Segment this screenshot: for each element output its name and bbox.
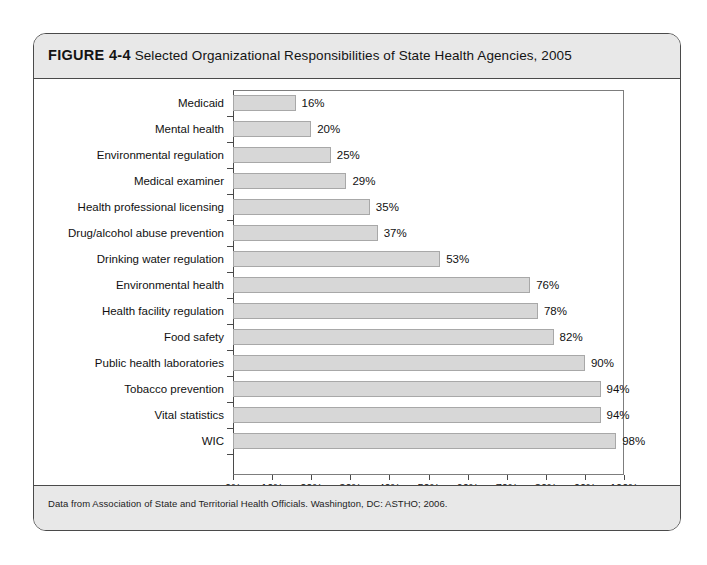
bar-row: Tobacco prevention94%	[233, 376, 624, 402]
category-label: Mental health	[155, 123, 224, 135]
bar	[233, 121, 311, 137]
bar	[233, 95, 296, 111]
bar-rows: Medicaid16%Mental health20%Environmental…	[233, 90, 624, 475]
bar-value-label: 82%	[560, 331, 583, 343]
x-axis-tick	[389, 475, 390, 480]
bar-row: Mental health20%	[233, 116, 624, 142]
x-axis-tick	[546, 475, 547, 480]
bar-row: Drug/alcohol abuse prevention37%	[233, 220, 624, 246]
bar-value-label: 94%	[607, 409, 630, 421]
bar-row: Medical examiner29%	[233, 168, 624, 194]
source-note: Data from Association of State and Terri…	[48, 498, 447, 509]
y-axis-tick	[227, 454, 233, 455]
category-label: Tobacco prevention	[124, 383, 224, 395]
category-label: Health professional licensing	[78, 201, 224, 213]
x-axis-tick	[311, 475, 312, 480]
bar-row: Health facility regulation78%	[233, 298, 624, 324]
chart-body: Medicaid16%Mental health20%Environmental…	[34, 79, 680, 487]
bar-row: Food safety82%	[233, 324, 624, 350]
bar-row: Medicaid16%	[233, 90, 624, 116]
bar-row: Public health laboratories90%	[233, 350, 624, 376]
bar-value-label: 94%	[607, 383, 630, 395]
bar	[233, 355, 585, 371]
bar	[233, 251, 440, 267]
x-axis-tick	[585, 475, 586, 480]
bar-value-label: 25%	[337, 149, 360, 161]
x-axis-tick	[507, 475, 508, 480]
category-label: Medicaid	[178, 97, 224, 109]
category-label: Vital statistics	[155, 409, 224, 421]
figure-caption: Selected Organizational Responsibilities…	[135, 48, 572, 63]
bar-value-label: 90%	[591, 357, 614, 369]
figure-number: FIGURE 4-4	[48, 47, 131, 63]
x-axis-tick	[468, 475, 469, 480]
bar	[233, 173, 346, 189]
bar-value-label: 98%	[622, 435, 645, 447]
bar-row: Environmental health76%	[233, 272, 624, 298]
category-label: Environmental health	[116, 279, 224, 291]
bar	[233, 433, 616, 449]
bar	[233, 303, 538, 319]
x-axis-tick	[272, 475, 273, 480]
x-axis-tick	[350, 475, 351, 480]
bar	[233, 329, 554, 345]
figure-container: FIGURE 4-4 Selected Organizational Respo…	[33, 33, 681, 531]
category-label: Drinking water regulation	[97, 253, 224, 265]
bar	[233, 147, 331, 163]
figure-title: FIGURE 4-4 Selected Organizational Respo…	[48, 47, 572, 63]
bar-value-label: 53%	[446, 253, 469, 265]
bar-row: WIC98%	[233, 428, 624, 454]
category-label: Environmental regulation	[97, 149, 224, 161]
bar-value-label: 29%	[352, 175, 375, 187]
category-label: Drug/alcohol abuse prevention	[68, 227, 224, 239]
bar-value-label: 20%	[317, 123, 340, 135]
bar	[233, 199, 370, 215]
figure-footer-band: Data from Association of State and Terri…	[34, 485, 680, 530]
bar-row: Drinking water regulation53%	[233, 246, 624, 272]
bar	[233, 407, 601, 423]
bar	[233, 381, 601, 397]
bar-value-label: 35%	[376, 201, 399, 213]
category-label: WIC	[202, 435, 224, 447]
x-axis-tick	[429, 475, 430, 480]
x-axis-tick	[624, 475, 625, 480]
bar-row: Environmental regulation25%	[233, 142, 624, 168]
figure-header-band: FIGURE 4-4 Selected Organizational Respo…	[34, 34, 680, 79]
bar-value-label: 16%	[302, 97, 325, 109]
category-label: Medical examiner	[134, 175, 224, 187]
bar-value-label: 37%	[384, 227, 407, 239]
bar-row: Health professional licensing35%	[233, 194, 624, 220]
category-label: Public health laboratories	[95, 357, 224, 369]
bar-value-label: 76%	[536, 279, 559, 291]
category-label: Health facility regulation	[102, 305, 224, 317]
bar-row: Vital statistics94%	[233, 402, 624, 428]
bar	[233, 225, 378, 241]
bar-value-label: 78%	[544, 305, 567, 317]
category-label: Food safety	[164, 331, 224, 343]
x-axis-tick	[233, 475, 234, 480]
bar	[233, 277, 530, 293]
